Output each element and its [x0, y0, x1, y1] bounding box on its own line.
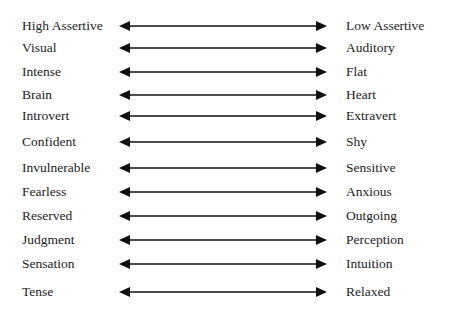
double-arrow-icon: [119, 257, 327, 271]
double-arrow-icon: [119, 233, 327, 247]
left-trait-label: Invulnerable: [22, 158, 90, 178]
trait-row: Judgment Perception: [0, 230, 451, 250]
left-trait-label: Fearless: [22, 182, 66, 202]
trait-row: Sensation Intuition: [0, 254, 451, 274]
right-trait-label: Extravert: [346, 106, 396, 126]
left-trait-label: Intense: [22, 62, 61, 82]
left-trait-label: Introvert: [22, 106, 69, 126]
left-trait-label: Confident: [22, 132, 76, 152]
double-arrow-icon: [119, 135, 327, 149]
double-arrow-icon: [119, 65, 327, 79]
double-arrow-icon: [119, 209, 327, 223]
trait-row: Invulnerable Sensitive: [0, 158, 451, 178]
right-trait-label: Outgoing: [346, 206, 397, 226]
trait-row: High Assertive Low Assertive: [0, 16, 451, 36]
trait-row: Introvert Extravert: [0, 106, 451, 126]
right-trait-label: Flat: [346, 62, 367, 82]
double-arrow-icon: [119, 41, 327, 55]
trait-row: Confident Shy: [0, 132, 451, 152]
trait-row: Brain Heart: [0, 85, 451, 105]
double-arrow-icon: [119, 88, 327, 102]
right-trait-label: Anxious: [346, 182, 392, 202]
trait-row: Visual Auditory: [0, 38, 451, 58]
left-trait-label: Brain: [22, 85, 52, 105]
double-arrow-icon: [119, 109, 327, 123]
right-trait-label: Shy: [346, 132, 367, 152]
right-trait-label: Relaxed: [346, 282, 390, 302]
double-arrow-icon: [119, 285, 327, 299]
right-trait-label: Heart: [346, 85, 376, 105]
trait-row: Tense Relaxed: [0, 282, 451, 302]
left-trait-label: Visual: [22, 38, 56, 58]
double-arrow-icon: [119, 19, 327, 33]
trait-row: Intense Flat: [0, 62, 451, 82]
left-trait-label: Judgment: [22, 230, 75, 250]
trait-row: Reserved Outgoing: [0, 206, 451, 226]
trait-row: Fearless Anxious: [0, 182, 451, 202]
double-arrow-icon: [119, 161, 327, 175]
right-trait-label: Perception: [346, 230, 404, 250]
right-trait-label: Intuition: [346, 254, 393, 274]
left-trait-label: Tense: [22, 282, 53, 302]
double-arrow-icon: [119, 185, 327, 199]
left-trait-label: Sensation: [22, 254, 75, 274]
right-trait-label: Low Assertive: [346, 16, 424, 36]
right-trait-label: Auditory: [346, 38, 395, 58]
left-trait-label: Reserved: [22, 206, 72, 226]
left-trait-label: High Assertive: [22, 16, 103, 36]
right-trait-label: Sensitive: [346, 158, 396, 178]
